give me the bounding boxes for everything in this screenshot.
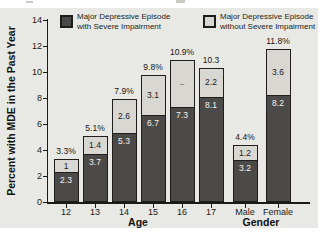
y-axis-tick-label: 2 <box>16 171 42 182</box>
bar-value-severe-impairment: 8.1 <box>199 100 224 110</box>
bar-segment-severe-impairment <box>170 107 195 202</box>
plot-area: 2.313.3%123.71.45.1%135.32.67.9%146.73.1… <box>0 8 318 228</box>
bar-value-without-severe-impairment: 1 <box>54 161 79 171</box>
bar-segment-severe-impairment <box>266 95 291 202</box>
y-axis-tick-label: 14 <box>16 15 42 26</box>
bar-value-severe-impairment: 5.3 <box>112 136 137 146</box>
bar-value-severe-impairment: 2.3 <box>54 175 79 185</box>
cropped-text-remnant <box>26 1 33 3</box>
cropped-text-remnant <box>176 0 185 3</box>
bar-total-label: 5.1% <box>73 123 117 134</box>
bar-total-label: 4.4% <box>223 132 267 143</box>
bar-value-severe-impairment: 3.2 <box>233 163 258 173</box>
bar-total-label: 7.9% <box>102 86 146 97</box>
chart-panel: Major Depressive Episode with Severe Imp… <box>0 8 318 228</box>
bar-value-without-severe-impairment: – <box>170 79 195 89</box>
figure-root: { "legend": [ { "label": "Major Depressi… <box>0 0 323 234</box>
bar-value-without-severe-impairment: 1.2 <box>233 148 258 158</box>
y-axis-tick-label: 4 <box>16 145 42 156</box>
y-axis-tick-label: 12 <box>16 41 42 52</box>
y-axis-tick-label: 0 <box>16 197 42 208</box>
bar-segment-severe-impairment <box>141 115 166 202</box>
bar-value-without-severe-impairment: 2.2 <box>199 77 224 87</box>
x-axis-group-label-gender: Gender <box>226 216 296 228</box>
bar-total-label: 9.8% <box>131 62 175 73</box>
bar-total-label: 10.3 <box>189 55 233 66</box>
x-axis-line <box>47 202 310 204</box>
bar-value-without-severe-impairment: 2.6 <box>112 111 137 121</box>
bar-segment-severe-impairment <box>199 97 224 202</box>
bar-value-severe-impairment: 3.7 <box>83 157 108 167</box>
bar-total-label: 11.8% <box>256 36 300 47</box>
bar-value-severe-impairment: 7.3 <box>170 110 195 120</box>
x-axis-group-label-age: Age <box>103 216 173 228</box>
bar-value-severe-impairment: 6.7 <box>141 118 166 128</box>
bar-total-label: 3.3% <box>44 146 88 157</box>
bar-value-without-severe-impairment: 3.1 <box>141 90 166 100</box>
bar-value-severe-impairment: 8.2 <box>266 98 291 108</box>
y-axis-tick-label: 10 <box>16 67 42 78</box>
y-axis-tick-label: 8 <box>16 93 42 104</box>
bar-value-without-severe-impairment: 1.4 <box>83 140 108 150</box>
y-axis-tick-label: 6 <box>16 119 42 130</box>
y-axis-line <box>47 19 48 203</box>
bar-value-without-severe-impairment: 3.6 <box>266 67 291 77</box>
